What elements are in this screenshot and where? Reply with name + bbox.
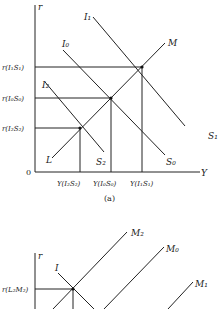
label-S0: S₀	[166, 157, 176, 167]
panel-a-caption: (a)	[104, 194, 115, 203]
label-S2: S₂	[96, 157, 106, 167]
label-S1: S₁	[208, 131, 218, 141]
is-curve-b	[58, 273, 94, 309]
label-M0: M₀	[165, 244, 179, 254]
r-axis-label-b: r	[38, 251, 43, 261]
equilibrium-0	[109, 96, 112, 99]
equilibrium-1	[140, 65, 143, 68]
label-r-I0S0: r(I₀S₀)	[2, 95, 24, 103]
lm-curve	[52, 43, 165, 158]
label-I0: I₀	[61, 39, 70, 49]
lm-curve-1	[168, 282, 193, 309]
panel-a: r Y 0 I₁ I₀ I₂ M L S₁ S₀ S₂ r(I₁S₁) r(I₀…	[2, 2, 218, 203]
label-I1: I₁	[83, 12, 91, 22]
label-r-L2M2: r(L₂M₂)	[2, 286, 29, 294]
origin-label: 0	[26, 168, 31, 177]
label-L: L	[45, 155, 52, 165]
label-Y-I0S0: Y(I₀S₀)	[93, 180, 117, 188]
label-I2: I₂	[41, 80, 50, 90]
lm-curve-2	[53, 232, 127, 309]
label-r-I2S2: r(I₂S₂)	[2, 125, 24, 133]
is-curve-0	[63, 50, 165, 155]
label-M2: M₂	[130, 228, 144, 238]
is-curve-2	[45, 82, 104, 152]
equilibrium-2	[78, 126, 81, 129]
y-axis-label: Y	[201, 168, 208, 178]
label-M: M	[167, 38, 178, 48]
label-Y-I1S1: Y(I₁S₁)	[130, 180, 154, 188]
is-lm-diagram: r Y 0 I₁ I₀ I₂ M L S₁ S₀ S₂ r(I₁S₁) r(I₀…	[0, 0, 223, 309]
r-axis-label: r	[38, 2, 43, 12]
is-curve-1	[93, 17, 185, 126]
equilibrium-b	[71, 287, 74, 290]
label-r-I1S1: r(I₁S₁)	[2, 64, 24, 72]
panel-b: r I M₂ M₀ M₁ r(L₂M₂)	[2, 228, 208, 309]
label-M1: M₁	[194, 279, 208, 289]
lm-curve-0	[104, 247, 164, 309]
label-I-b: I	[54, 263, 59, 273]
label-Y-I2S2: Y(I₂S₂)	[57, 180, 81, 188]
